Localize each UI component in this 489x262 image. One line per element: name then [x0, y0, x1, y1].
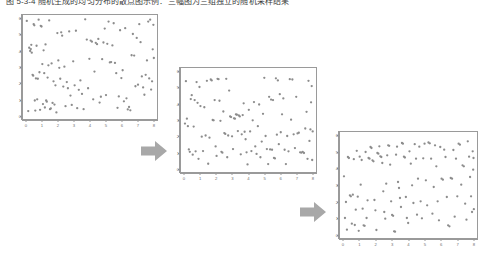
scatter-point	[417, 178, 419, 180]
scatter-point	[67, 87, 69, 89]
scatter-point	[93, 70, 95, 72]
scatter-point	[364, 151, 366, 153]
y-tick-label: 0	[336, 233, 338, 238]
x-tick-label: 4	[247, 176, 249, 181]
scatter-point	[125, 97, 127, 99]
scatter-point	[59, 78, 61, 80]
y-tick-label: 2	[19, 81, 21, 86]
scatter-point	[421, 217, 423, 219]
scatter-point	[123, 100, 125, 102]
scatter-point	[44, 43, 46, 45]
scatter-point	[285, 163, 287, 165]
scatter-point	[215, 155, 217, 157]
scatter-point	[416, 214, 418, 216]
scatter-point	[306, 158, 308, 160]
x-tick-label: 8	[473, 242, 475, 247]
scatter-point	[463, 165, 465, 167]
scatter-point	[36, 98, 38, 100]
x-tick-label: 5	[105, 123, 107, 128]
scatter-point	[471, 211, 473, 213]
scatter-point	[37, 18, 39, 20]
scatter-point	[385, 183, 387, 185]
scatter-point	[194, 150, 196, 152]
x-tick-label: 7	[456, 242, 458, 247]
scatter-point	[54, 84, 56, 86]
scatter-point	[452, 149, 454, 151]
scatter-point	[237, 130, 239, 132]
scatter-point	[219, 120, 221, 122]
scatter-point	[221, 152, 223, 154]
scatter-point	[34, 99, 36, 101]
x-tick-mark	[392, 239, 393, 241]
x-tick-mark	[74, 120, 75, 122]
scatter-point	[213, 99, 215, 101]
y-tick-label: 2	[336, 199, 338, 204]
scatter-point	[46, 76, 48, 78]
scatter-point	[350, 195, 352, 197]
plot-2-points	[180, 67, 317, 173]
plot-3-y-axis: 0123456	[329, 131, 339, 239]
scatter-point	[380, 156, 382, 158]
scatter-point	[129, 109, 131, 111]
scatter-point	[472, 157, 474, 159]
scatter-point	[473, 208, 475, 210]
scatter-point	[407, 222, 409, 224]
scatter-point	[82, 108, 84, 110]
scatter-point	[57, 59, 59, 61]
scatter-point	[418, 146, 420, 148]
scatter-point	[34, 109, 36, 111]
x-tick-label: 1	[199, 176, 201, 181]
scatter-point	[239, 115, 241, 117]
scatter-point	[431, 213, 433, 215]
scatter-point	[352, 194, 354, 196]
plot-1-x-axis: 012345678	[22, 120, 158, 129]
x-tick-label: 5	[424, 242, 426, 247]
y-tick-label: 1	[177, 150, 179, 155]
scatter-point	[430, 158, 432, 160]
x-tick-mark	[184, 173, 185, 175]
scatter-point	[286, 135, 288, 137]
scatter-point	[361, 159, 363, 161]
scatter-point	[96, 43, 98, 45]
scatter-point	[197, 158, 199, 160]
scatter-point	[143, 94, 145, 96]
scatter-point	[281, 113, 283, 115]
scatter-point	[224, 133, 226, 135]
x-tick-mark	[58, 120, 59, 122]
scatter-point	[274, 157, 276, 159]
scatter-point	[72, 60, 74, 62]
scatter-point	[56, 32, 58, 34]
scatter-point	[267, 163, 269, 165]
scatter-point	[97, 38, 99, 40]
scatter-point	[446, 196, 448, 198]
scatter-point	[360, 184, 362, 186]
scatter-point	[426, 204, 428, 206]
scatter-point	[50, 62, 52, 64]
scatter-point	[245, 151, 247, 153]
scatter-point	[58, 67, 60, 69]
scatter-point	[249, 130, 251, 132]
x-tick-label: 6	[280, 176, 282, 181]
scatter-point	[456, 195, 458, 197]
x-tick-mark	[200, 173, 201, 175]
scatter-point	[206, 80, 208, 82]
scatter-point	[381, 162, 383, 164]
x-tick-label: 0	[183, 176, 185, 181]
scatter-point	[357, 196, 359, 198]
scatter-point	[469, 176, 471, 178]
scatter-point	[149, 18, 151, 20]
scatter-point	[268, 96, 270, 98]
scatter-point	[187, 125, 189, 127]
scatter-point	[246, 163, 248, 165]
scatter-point	[243, 102, 245, 104]
scatter-point	[240, 153, 242, 155]
scatter-point	[146, 59, 148, 61]
scatter-point	[60, 31, 62, 33]
x-tick-mark	[122, 120, 123, 122]
scatter-point	[27, 110, 29, 112]
scatter-point	[443, 149, 445, 151]
scatter-point	[373, 199, 375, 201]
x-tick-mark	[90, 120, 91, 122]
y-tick-label: 5	[336, 149, 338, 154]
x-tick-mark	[26, 120, 27, 122]
